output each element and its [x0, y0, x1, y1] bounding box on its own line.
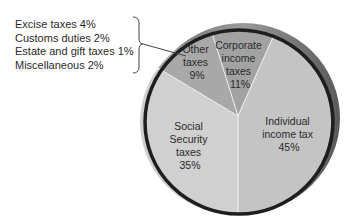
pie-chart: Other taxes 9% Corporate income taxes 11…	[0, 0, 363, 222]
bracket	[133, 17, 143, 73]
